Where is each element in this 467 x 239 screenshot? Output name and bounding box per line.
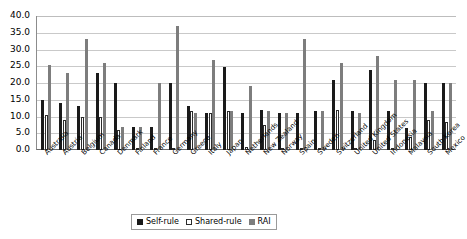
bar-rai: [249, 86, 252, 150]
bar-group: [237, 16, 255, 150]
y-axis-labels: 0.05.010.015.020.025.030.035.040.0: [0, 0, 33, 166]
bar-group: [146, 16, 164, 150]
bar-group: [292, 16, 310, 150]
legend-label-rai: RAI: [258, 217, 271, 226]
bar-group: [37, 16, 55, 150]
bar-shared: [45, 115, 48, 150]
y-axis-tick-10-0: 10.0: [10, 112, 30, 121]
bar-rai: [303, 39, 306, 150]
legend-swatch-rai: [249, 219, 255, 225]
bar-shared: [81, 117, 84, 151]
bar-rai: [176, 26, 179, 150]
legend-item-self-rule: Self-rule: [137, 217, 179, 226]
bar-shared: [209, 113, 212, 150]
legend-swatch-shared-rule: [186, 219, 192, 225]
y-axis-tick-15-0: 15.0: [10, 95, 30, 104]
bar-shared: [336, 110, 339, 150]
legend-item-shared-rule: Shared-rule: [186, 217, 242, 226]
bar-self: [223, 67, 226, 150]
y-axis-tick-35-0: 35.0: [10, 28, 30, 37]
bar-group: [310, 16, 328, 150]
bar-rai: [413, 80, 416, 150]
bar-rai: [158, 83, 161, 150]
y-axis-tick-5-0: 5.0: [16, 128, 30, 137]
bar-rai: [85, 39, 88, 150]
y-axis-tick-20-0: 20.0: [10, 78, 30, 87]
bar-self: [41, 100, 44, 150]
bar-group: [110, 16, 128, 150]
y-axis-tick-30-0: 30.0: [10, 45, 30, 54]
legend-item-rai: RAI: [249, 217, 271, 226]
legend-swatch-self-rule: [137, 219, 143, 225]
bar-group: [201, 16, 219, 150]
bar-rai: [212, 60, 215, 150]
legend-label-self-rule: Self-rule: [146, 217, 179, 226]
y-axis-tick-25-0: 25.0: [10, 61, 30, 70]
chart-legend: Self-rule Shared-rule RAI: [131, 214, 277, 230]
y-axis-tick-0-0: 0.0: [16, 145, 30, 154]
bar-shared: [227, 111, 230, 150]
bar-group: [165, 16, 183, 150]
bar-group: [219, 16, 237, 150]
bar-rai: [48, 65, 51, 150]
bar-rai: [449, 83, 452, 150]
x-axis-labels: AustraliaAustriaBelgiumCanadaDenmarkFinl…: [37, 151, 456, 207]
legend-label-shared-rule: Shared-rule: [195, 217, 242, 226]
bar-group: [73, 16, 91, 150]
y-axis-tick-40-0: 40.0: [10, 11, 30, 20]
bar-group: [328, 16, 346, 150]
